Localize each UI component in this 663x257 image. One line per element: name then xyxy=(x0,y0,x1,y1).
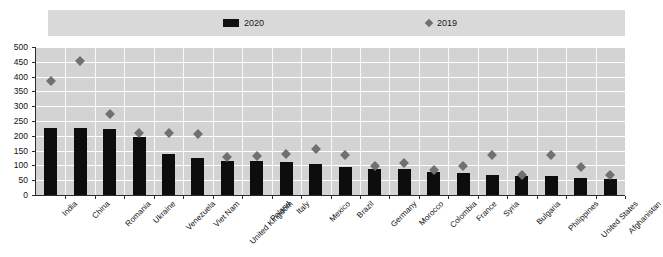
y-axis: 500450400350300250200150100500 xyxy=(0,47,32,195)
marker-mexico xyxy=(311,144,321,154)
marker-india xyxy=(46,76,56,86)
gridline-vertical xyxy=(154,47,155,195)
gridline-vertical xyxy=(448,47,449,195)
x-axis-tick-mark xyxy=(213,196,214,199)
x-axis-tick-mark xyxy=(124,196,125,199)
bar-india xyxy=(44,128,57,195)
x-axis-label-syria: Syria xyxy=(503,200,522,219)
bar-viet-nam xyxy=(191,158,204,195)
x-axis-tick-mark xyxy=(331,196,332,199)
marker-romania xyxy=(105,109,115,119)
x-axis-tick-mark xyxy=(360,196,361,199)
bar-philippines xyxy=(545,176,558,195)
bar-italy xyxy=(280,162,293,195)
x-axis-label-italy: Italy xyxy=(296,200,312,216)
bar-united-kingdom xyxy=(221,161,234,195)
bar-venezuela xyxy=(162,154,175,195)
x-axis-label-poland: Poland xyxy=(269,200,292,223)
chart-legend: 2020 2019 xyxy=(48,10,625,36)
x-axis-tick-mark xyxy=(95,196,96,199)
bar-ukraine xyxy=(133,137,146,195)
gridline-vertical xyxy=(213,47,214,195)
bar-afghanistan xyxy=(604,179,617,195)
x-axis-label-brazil: Brazil xyxy=(356,200,376,220)
x-axis-label-ukraine: Ukraine xyxy=(152,200,177,225)
bar-china xyxy=(74,128,87,195)
x-axis-tick-mark xyxy=(537,196,538,199)
x-axis-labels: IndiaChinaRomaniaUkraineVenezuelaViet Na… xyxy=(0,196,647,257)
marker-china xyxy=(75,56,85,66)
legend-item-2019[interactable]: 2019 xyxy=(426,10,457,36)
x-axis-label-morocco: Morocco xyxy=(418,200,445,227)
x-axis-label-india: India xyxy=(61,200,79,218)
x-axis-tick-mark xyxy=(448,196,449,199)
x-axis-label-colombia: Colombia xyxy=(448,200,478,230)
x-axis-tick-mark xyxy=(625,196,626,199)
x-axis-label-venezuela: Venezuela xyxy=(184,200,216,232)
x-axis-tick-mark xyxy=(566,196,567,199)
x-axis-label-germany: Germany xyxy=(389,200,418,229)
y-axis-tick-label: 500 xyxy=(14,43,28,52)
bar-united-states xyxy=(574,178,587,195)
bar-mexico xyxy=(309,164,322,195)
legend-bar-swatch-icon xyxy=(223,19,239,27)
plot-area xyxy=(36,47,625,195)
y-axis-tick-label: 100 xyxy=(14,161,28,170)
x-axis-tick-mark xyxy=(301,196,302,199)
x-axis-label-romania: Romania xyxy=(124,200,152,228)
y-axis-tick-label: 450 xyxy=(14,58,28,67)
y-axis-tick-label: 400 xyxy=(14,72,28,81)
marker-poland xyxy=(252,152,262,162)
gridline-vertical xyxy=(507,47,508,195)
legend-diamond-swatch-icon xyxy=(425,19,433,27)
x-axis-label-china: China xyxy=(91,200,111,220)
marker-syria xyxy=(488,150,498,160)
gridline-vertical xyxy=(242,47,243,195)
legend-item-2020[interactable]: 2020 xyxy=(223,10,264,36)
gridline-vertical xyxy=(389,47,390,195)
y-axis-tick-label: 250 xyxy=(14,117,28,126)
gridline-vertical xyxy=(566,47,567,195)
bar-france xyxy=(457,173,470,195)
x-axis-tick-mark xyxy=(183,196,184,199)
gridline-vertical xyxy=(360,47,361,195)
marker-viet-nam xyxy=(193,129,203,139)
gridline-vertical xyxy=(331,47,332,195)
y-axis-tick-label: 50 xyxy=(19,176,28,185)
legend-label-2019: 2019 xyxy=(437,19,457,28)
x-axis-tick-mark xyxy=(478,196,479,199)
gridline-vertical xyxy=(183,47,184,195)
y-axis-tick-label: 200 xyxy=(14,132,28,141)
gridline-vertical xyxy=(478,47,479,195)
gridline-vertical xyxy=(301,47,302,195)
marker-france xyxy=(458,161,468,171)
x-axis-tick-mark xyxy=(389,196,390,199)
legend-label-2020: 2020 xyxy=(244,19,264,28)
gridline-vertical xyxy=(124,47,125,195)
x-axis-tick-mark xyxy=(242,196,243,199)
gridline-vertical xyxy=(95,47,96,195)
bar-germany xyxy=(368,169,381,195)
y-axis-tick-label: 350 xyxy=(14,87,28,96)
bar-romania xyxy=(103,129,116,195)
x-axis-label-france: France xyxy=(475,200,498,223)
x-axis-label-mexico: Mexico xyxy=(328,200,352,224)
bar-morocco xyxy=(398,169,411,195)
bar-brazil xyxy=(339,167,352,195)
bar-poland xyxy=(250,161,263,195)
x-axis-tick-mark xyxy=(507,196,508,199)
y-axis-tick-label: 300 xyxy=(14,102,28,111)
x-axis-label-philippines: Philippines xyxy=(568,200,601,233)
gridline-vertical xyxy=(65,47,66,195)
x-axis-tick-mark xyxy=(65,196,66,199)
bar-syria xyxy=(486,175,499,195)
gridline-vertical xyxy=(419,47,420,195)
x-axis-tick-mark xyxy=(272,196,273,199)
gridline-vertical xyxy=(596,47,597,195)
y-axis-tick-label: 150 xyxy=(14,146,28,155)
x-axis-label-bulgaria: Bulgaria xyxy=(536,200,562,226)
x-axis-label-viet-nam: Viet Nam xyxy=(213,200,242,229)
marker-united-states xyxy=(576,162,586,172)
x-axis-tick-mark xyxy=(419,196,420,199)
